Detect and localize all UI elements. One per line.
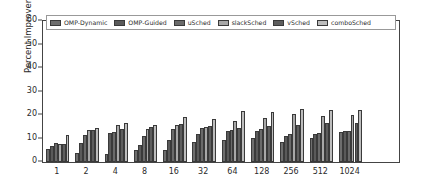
bar-group	[339, 21, 362, 162]
bar-group	[280, 21, 303, 162]
bar	[271, 112, 275, 162]
x-tick-mark	[262, 159, 263, 163]
legend-entry[interactable]: vSched	[273, 19, 310, 26]
bar	[358, 110, 362, 162]
bar-group	[134, 21, 157, 162]
x-tick-mark	[57, 159, 58, 163]
legend-swatch-icon	[317, 20, 328, 26]
bar-group	[75, 21, 98, 162]
legend-swatch-icon	[174, 20, 185, 26]
legend-label: OMP-Dynamic	[64, 19, 107, 26]
chart-legend: OMP-DynamicOMP-GuideduSchedslackSchedvSc…	[46, 15, 396, 30]
legend-label: vSched	[287, 19, 310, 26]
y-tick-label: 0	[32, 157, 37, 165]
x-axis: 12481632641282565121024	[42, 163, 400, 193]
chart-figure: 0102030405060 Percent Improvement 124816…	[0, 0, 426, 193]
bar	[153, 125, 157, 162]
x-tick-label: 4	[113, 167, 118, 176]
bar	[212, 119, 216, 162]
bar	[300, 109, 304, 162]
x-tick-label: 8	[142, 167, 147, 176]
x-tick-mark	[203, 159, 204, 163]
bar-group	[222, 21, 245, 162]
x-tick-label: 16	[169, 167, 179, 176]
legend-label: slackSched	[232, 19, 267, 26]
bar-group	[251, 21, 274, 162]
legend-entry[interactable]: OMP-Guided	[114, 19, 166, 26]
bar-group	[192, 21, 215, 162]
legend-entry[interactable]: uSched	[174, 19, 211, 26]
x-tick-label: 2	[83, 167, 88, 176]
legend-label: OMP-Guided	[128, 19, 166, 26]
x-tick-label: 1024	[339, 167, 359, 176]
bar	[95, 128, 99, 162]
bar	[124, 123, 128, 162]
x-tick-mark	[86, 159, 87, 163]
bar-group	[105, 21, 128, 162]
x-tick-mark	[232, 159, 233, 163]
legend-swatch-icon	[273, 20, 284, 26]
y-tick-label: 10	[27, 134, 37, 142]
bar-group	[46, 21, 69, 162]
x-tick-mark	[320, 159, 321, 163]
bar	[66, 135, 70, 162]
x-tick-mark	[291, 159, 292, 163]
y-axis-label: Percent Improvement	[21, 0, 35, 99]
y-tick-label: 20	[27, 110, 37, 118]
legend-entry[interactable]: comboSched	[317, 19, 371, 26]
x-tick-mark	[174, 159, 175, 163]
plot-area	[42, 20, 400, 163]
legend-swatch-icon	[114, 20, 125, 26]
x-tick-label: 64	[227, 167, 237, 176]
legend-entry[interactable]: OMP-Dynamic	[50, 19, 107, 26]
legend-label: uSched	[188, 19, 211, 26]
x-tick-mark	[115, 159, 116, 163]
x-tick-label: 32	[198, 167, 208, 176]
x-tick-label: 128	[254, 167, 269, 176]
bar	[329, 110, 333, 162]
x-tick-mark	[145, 159, 146, 163]
legend-entry[interactable]: slackSched	[218, 19, 267, 26]
legend-swatch-icon	[50, 20, 61, 26]
x-tick-label: 1	[54, 167, 59, 176]
x-tick-label: 512	[313, 167, 328, 176]
x-tick-mark	[350, 159, 351, 163]
bar-group	[163, 21, 186, 162]
legend-label: comboSched	[331, 19, 371, 26]
legend-swatch-icon	[218, 20, 229, 26]
x-tick-label: 256	[283, 167, 298, 176]
bar	[183, 117, 187, 162]
bar-group	[310, 21, 333, 162]
bar	[241, 111, 245, 162]
